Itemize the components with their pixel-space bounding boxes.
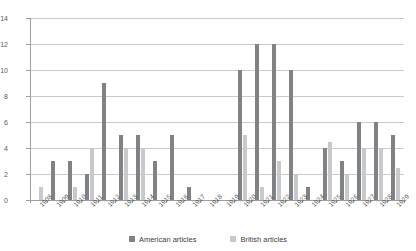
bar-group [200,18,217,200]
bar-british-1913 [124,148,128,200]
bar-american-1927 [357,122,361,200]
bar-british-1914 [141,148,145,200]
bar-group [81,18,98,200]
y-tick-label: 12 [0,41,8,48]
legend-label: American articles [139,235,197,244]
bar-group [183,18,200,200]
bar-american-1925 [323,148,327,200]
y-tick-label: 2 [4,171,8,178]
y-tick-label: 4 [4,145,8,152]
bar-group [149,18,166,200]
bar-british-1911 [90,148,94,200]
legend-swatch-icon [230,236,236,242]
bar-group [336,18,353,200]
bar-american-1916 [170,135,174,200]
x-axis-labels: 1908190919101911191219131914191519161917… [30,203,404,233]
bar-group [98,18,115,200]
bar-american-1914 [136,135,140,200]
bar-american-1923 [289,70,293,200]
bar-group [268,18,285,200]
bar-american-1913 [119,135,123,200]
legend-item[interactable]: British articles [230,235,287,244]
bar-group [217,18,234,200]
chart-legend: American articlesBritish articles [0,232,416,246]
legend-swatch-icon [129,236,135,242]
y-tick-label: 0 [4,197,8,204]
bar-group [47,18,64,200]
bar-american-1928 [374,122,378,200]
bar-group [166,18,183,200]
bar-british-1923 [294,174,298,200]
bar-chart: 02468101214 1908190919101911191219131914… [0,0,416,251]
plot-wrapper: 02468101214 1908190919101911191219131914… [0,0,416,251]
bar-british-1927 [362,148,366,200]
bar-group [302,18,319,200]
y-axis: 02468101214 [0,0,30,251]
bar-british-1922 [277,161,281,200]
y-tick-label: 6 [4,119,8,126]
bar-group [285,18,302,200]
bar-group [387,18,404,200]
bar-american-1921 [255,44,259,200]
legend-label: British articles [240,235,287,244]
bar-american-1915 [153,161,157,200]
bar-group [370,18,387,200]
bar-american-1926 [340,161,344,200]
bar-group [30,18,47,200]
bar-american-1912 [102,83,106,200]
bar-group [251,18,268,200]
bar-british-1925 [328,142,332,201]
bar-group [319,18,336,200]
bar-american-1929 [391,135,395,200]
bar-american-1909 [51,161,55,200]
y-tick-label: 8 [4,93,8,100]
bar-british-1928 [379,148,383,200]
bar-american-1910 [68,161,72,200]
bar-group [132,18,149,200]
y-tick-label: 14 [0,15,8,22]
bar-american-1920 [238,70,242,200]
legend-item[interactable]: American articles [129,235,197,244]
y-tick-label: 10 [0,67,8,74]
bar-group [353,18,370,200]
bars-container [30,18,404,200]
bar-british-1929 [396,168,400,201]
bar-british-1920 [243,135,247,200]
bar-american-1922 [272,44,276,200]
bar-group [64,18,81,200]
bar-group [115,18,132,200]
bar-british-1926 [345,174,349,200]
bar-group [234,18,251,200]
